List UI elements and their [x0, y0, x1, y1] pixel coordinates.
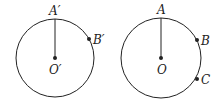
label-b: B: [200, 34, 210, 48]
label-o: O: [157, 63, 167, 77]
right-circle: A B C O: [121, 3, 210, 98]
diagram: A′ B′ O′ A B C O: [0, 0, 222, 108]
center-point: [53, 56, 57, 60]
point-b: [195, 38, 199, 42]
point-c: [195, 77, 199, 81]
left-circle: A′ B′ O′: [16, 4, 105, 97]
label-o-prime: O′: [49, 63, 62, 77]
center-point: [159, 56, 163, 60]
label-a: A: [156, 3, 166, 17]
label-b-prime: B′: [92, 33, 105, 47]
label-a-prime: A′: [48, 4, 61, 18]
label-c: C: [201, 73, 210, 87]
point-b-prime: [87, 37, 91, 41]
